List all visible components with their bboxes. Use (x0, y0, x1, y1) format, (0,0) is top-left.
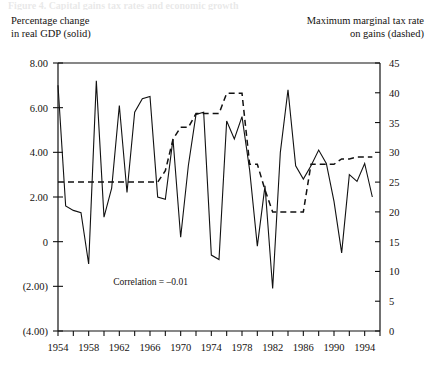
x-axis-tick-labels: 1954195819621966197019741978198219861990… (48, 342, 376, 353)
axes-frame (58, 63, 380, 331)
x-tick-label: 1990 (324, 342, 345, 353)
x-tick-label: 1982 (262, 342, 283, 353)
x-tick-label: 1986 (293, 342, 314, 353)
x-tick-label: 1994 (354, 342, 376, 353)
left-tick-label: 6.00 (30, 103, 48, 114)
right-tick-label: 25 (389, 177, 400, 188)
right-axis-ticks (375, 63, 380, 331)
x-tick-label: 1970 (170, 342, 191, 353)
left-axis-tick-labels: (4.00)(2.00)02.004.006.008.00 (23, 58, 49, 338)
right-tick-label: 10 (389, 266, 400, 277)
series-tax-rate-line (58, 93, 372, 212)
left-tick-label: 4.00 (30, 147, 48, 158)
x-axis-ticks (58, 331, 380, 336)
right-tick-label: 40 (389, 88, 400, 99)
right-tick-label: 5 (389, 296, 394, 307)
right-tick-label: 45 (389, 58, 400, 69)
left-tick-label: 8.00 (30, 58, 48, 69)
series-gdp-line (58, 81, 372, 289)
x-tick-label: 1958 (78, 342, 99, 353)
right-tick-label: 35 (389, 118, 400, 129)
right-tick-label: 0 (389, 326, 394, 337)
x-tick-label: 1974 (201, 342, 223, 353)
x-tick-label: 1966 (140, 342, 161, 353)
chart-plot: (4.00)(2.00)02.004.006.008.00 0510152025… (0, 0, 428, 365)
x-tick-label: 1978 (232, 342, 253, 353)
x-tick-label: 1954 (48, 342, 70, 353)
right-axis-tick-labels: 051015202530354045 (389, 58, 400, 337)
left-tick-label: (2.00) (23, 281, 49, 293)
left-tick-label: (4.00) (23, 326, 49, 338)
left-tick-label: 2.00 (30, 192, 48, 203)
left-tick-label: 0 (43, 237, 48, 248)
right-tick-label: 30 (389, 147, 400, 158)
data-series-group (58, 81, 372, 289)
right-tick-label: 15 (389, 237, 400, 248)
x-tick-label: 1962 (109, 342, 130, 353)
figure-container: Figure 4. Capital gains tax rates and ec… (0, 0, 428, 365)
right-tick-label: 20 (389, 207, 400, 218)
correlation-annotation: Correlation = –0.01 (113, 277, 188, 287)
